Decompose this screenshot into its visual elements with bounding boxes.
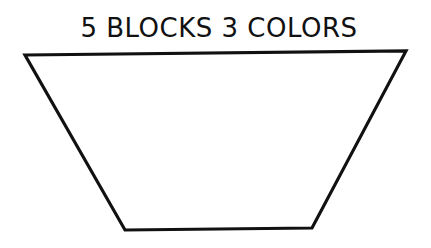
- diagram-canvas: [0, 0, 431, 248]
- trapezoid-outline: [25, 51, 406, 230]
